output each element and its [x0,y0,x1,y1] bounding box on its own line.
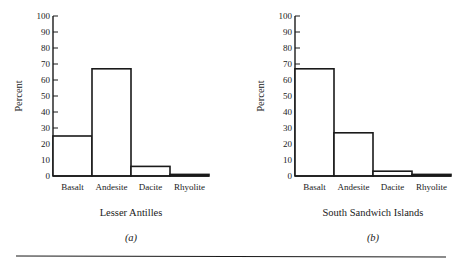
y-tick-label: 90 [41,27,51,37]
bar-basalt [295,69,334,176]
bar-andesite [334,133,373,176]
x-category-label: Rhyolite [174,182,205,192]
y-tick-label: 90 [283,27,293,37]
y-tick-label: 80 [283,43,293,53]
y-tick-label: 20 [283,139,293,149]
y-tick-label: 30 [283,123,293,133]
y-tick-label: 70 [283,59,293,69]
x-category-label: Dacite [139,182,162,192]
figure: 0102030405060708090100PercentBasaltAndes… [0,0,465,261]
y-tick-label: 10 [41,155,51,165]
y-tick-label: 10 [283,155,293,165]
figure-bottom-rule [16,256,446,257]
y-axis-label: Percent [13,80,24,112]
y-tick-label: 50 [283,91,293,101]
x-category-label: Basalt [61,182,84,192]
x-category-label: Andesite [338,182,370,192]
y-tick-label: 40 [41,107,51,117]
chart-b: 0102030405060708090100PercentBasaltAndes… [255,11,451,244]
y-tick-label: 60 [41,75,51,85]
x-category-label: Dacite [381,182,404,192]
y-tick-label: 50 [41,91,51,101]
x-category-label: Andesite [96,182,128,192]
y-tick-label: 60 [283,75,293,85]
y-tick-label: 20 [41,139,51,149]
y-tick-label: 0 [288,171,293,181]
panel-label: (a) [125,232,138,244]
x-category-label: Rhyolite [416,182,447,192]
y-tick-label: 100 [279,11,293,21]
chart-a: 0102030405060708090100PercentBasaltAndes… [13,11,209,244]
y-tick-label: 30 [41,123,51,133]
y-tick-label: 70 [41,59,51,69]
panel-label: (b) [367,232,380,244]
bar-dacite [131,166,170,176]
x-category-label: Basalt [303,182,326,192]
y-tick-label: 0 [46,171,51,181]
bar-andesite [92,69,131,176]
y-tick-label: 40 [283,107,293,117]
chart-title: South Sandwich Islands [323,207,424,218]
y-tick-label: 80 [41,43,51,53]
bar-basalt [53,136,92,176]
y-tick-label: 100 [37,11,51,21]
y-axis-label: Percent [255,80,266,112]
chart-title: Lesser Antilles [100,207,163,218]
